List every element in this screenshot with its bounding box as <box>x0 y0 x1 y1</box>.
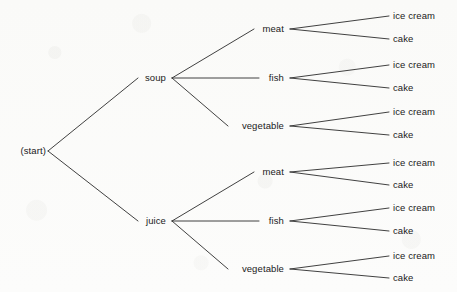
tree-edge <box>48 151 138 221</box>
tree-edge <box>290 256 389 269</box>
tree-edge <box>290 16 389 29</box>
tree-node-soup-vegetable: vegetable <box>242 121 284 131</box>
tree-edge <box>172 172 254 221</box>
tree-edge <box>290 65 389 78</box>
tree-node-leaf-10: cake <box>393 226 413 236</box>
tree-edge <box>290 208 389 221</box>
tree-edge <box>172 221 228 269</box>
tree-node-leaf-5: ice cream <box>393 107 435 117</box>
tree-node-soup-meat: meat <box>262 24 284 34</box>
tree-node-juice: juice <box>146 216 166 226</box>
tree-edge <box>290 112 389 126</box>
tree-node-leaf-3: ice cream <box>393 60 435 70</box>
tree-node-leaf-7: ice cream <box>393 158 435 168</box>
tree-edge <box>290 126 389 135</box>
tree-node-leaf-6: cake <box>393 130 413 140</box>
tree-node-soup: soup <box>145 73 166 83</box>
tree-edge <box>290 78 389 88</box>
tree-node-leaf-11: ice cream <box>393 251 435 261</box>
tree-edge <box>172 78 228 126</box>
tree-diagram-canvas: (start)soupjuicemeatfishvegetablemeatfis… <box>0 0 457 292</box>
tree-node-leaf-8: cake <box>393 180 413 190</box>
tree-edge <box>290 269 389 278</box>
tree-node-juice-vegetable: vegetable <box>242 264 284 274</box>
tree-edge <box>48 78 138 151</box>
tree-edge <box>172 29 254 78</box>
tree-edge <box>290 172 389 185</box>
tree-edge <box>290 29 389 39</box>
tree-edges-layer <box>0 0 457 292</box>
tree-node-leaf-12: cake <box>393 273 413 283</box>
tree-node-start: (start) <box>20 146 46 156</box>
tree-edge <box>290 163 389 172</box>
tree-node-leaf-1: ice cream <box>393 11 435 21</box>
tree-node-juice-fish: fish <box>269 216 284 226</box>
tree-node-leaf-2: cake <box>393 34 413 44</box>
tree-edge <box>290 221 389 231</box>
tree-node-juice-meat: meat <box>262 167 284 177</box>
tree-node-soup-fish: fish <box>269 73 284 83</box>
tree-node-leaf-4: cake <box>393 83 413 93</box>
tree-node-leaf-9: ice cream <box>393 203 435 213</box>
